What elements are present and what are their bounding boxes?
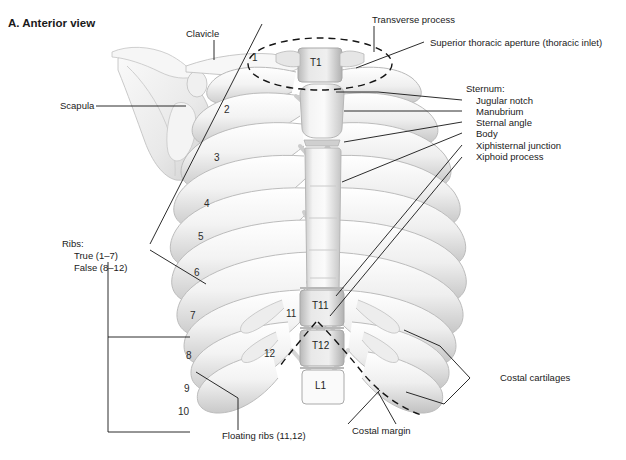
rib-number-5: 5 <box>198 231 204 242</box>
label-ribs-true: True (1–7) <box>74 250 118 261</box>
rib-number-3: 3 <box>214 152 220 163</box>
rib-number-12: 12 <box>264 348 275 359</box>
label-xiphoid-process: Xiphoid process <box>476 151 544 162</box>
rib-number-8: 8 <box>186 350 192 361</box>
rib-number-7: 7 <box>190 310 196 321</box>
label-clavicle: Clavicle <box>186 28 219 39</box>
glenoid <box>187 71 207 97</box>
label-sternal-angle: Sternal angle <box>476 117 532 128</box>
label-scapula: Scapula <box>60 100 94 111</box>
label-superior-thoracic-aperture: Superior thoracic aperture (thoracic inl… <box>430 37 602 48</box>
thoracic-skeleton-illustration <box>0 0 626 460</box>
label-ribs-heading: Ribs: <box>62 238 84 249</box>
vertebra-label-T11: T11 <box>312 300 329 311</box>
rib-number-6: 6 <box>194 267 200 278</box>
rib-number-11: 11 <box>286 308 296 319</box>
label-transverse-process: Transverse process <box>372 14 455 25</box>
label-jugular-notch: Jugular notch <box>476 95 533 106</box>
vertebra-label-T1: T1 <box>310 57 322 68</box>
rib-number-2: 2 <box>224 104 230 115</box>
vertebra-label-T12: T12 <box>312 340 329 351</box>
label-sternum-heading: Sternum: <box>466 83 505 94</box>
rib-number-10: 10 <box>178 406 189 417</box>
label-costal-cartilages: Costal cartilages <box>500 372 570 383</box>
label-floating-ribs: Floating ribs (11,12) <box>222 430 306 441</box>
label-ribs-false: False (8–12) <box>74 262 127 273</box>
label-body: Body <box>476 128 498 139</box>
label-costal-margin: Costal margin <box>352 425 411 436</box>
rib-number-1: 1 <box>252 52 258 63</box>
rib-number-9: 9 <box>184 383 190 394</box>
rib-number-4: 4 <box>204 198 210 209</box>
sternum-body-bone <box>305 148 341 298</box>
sternal-angle-joint <box>304 140 340 146</box>
label-xiphisternal-junction: Xiphisternal junction <box>476 140 561 151</box>
vertebra-label-L1: L1 <box>315 380 326 391</box>
page-title: A. Anterior view <box>8 18 95 29</box>
label-manubrium: Manubrium <box>476 106 524 117</box>
